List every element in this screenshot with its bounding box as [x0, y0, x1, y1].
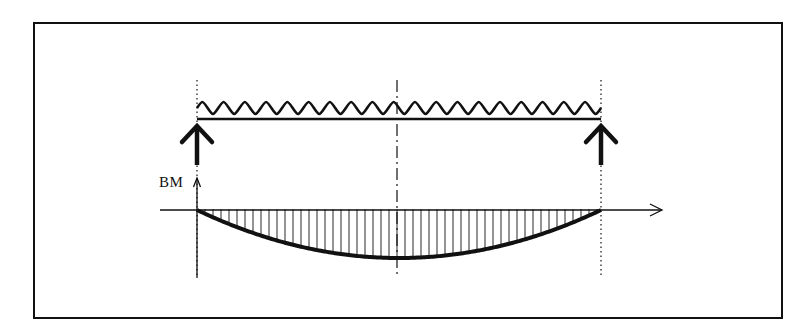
diagram-frame [34, 23, 782, 318]
bm-axis-label: BM [159, 174, 183, 191]
left-reaction-arrow-icon [182, 126, 212, 165]
reaction-arrows [182, 126, 616, 165]
distributed-load-wavy-line [197, 102, 601, 114]
beam-bending-moment-diagram: BM [0, 0, 807, 333]
diagram-canvas [0, 0, 807, 333]
bending-moment-curve [197, 210, 601, 258]
right-reaction-arrow-icon [586, 126, 616, 165]
